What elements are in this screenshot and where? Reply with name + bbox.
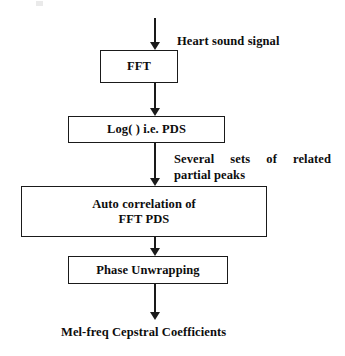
process-box-auto-correlation-label-line2: FFT PDS xyxy=(92,212,196,227)
arrow-head-icon xyxy=(150,108,160,116)
label-partial-peaks: Several sets of related partial peaks xyxy=(174,152,331,183)
arrow-head-icon xyxy=(150,312,160,320)
arrow-shaft xyxy=(154,284,156,313)
process-box-auto-correlation[interactable]: Auto correlation of FFT PDS xyxy=(21,186,267,237)
process-box-log-pds-label: Log( ) i.e. PDS xyxy=(107,122,186,137)
arrow-head-icon xyxy=(150,178,160,186)
label-heart-sound-signal: Heart sound signal xyxy=(177,34,280,50)
process-box-auto-correlation-text: Auto correlation of FFT PDS xyxy=(92,197,196,227)
arrow-head-icon xyxy=(150,42,160,50)
process-box-phase-unwrapping-label: Phase Unwrapping xyxy=(96,263,199,278)
process-box-fft-label: FFT xyxy=(127,59,151,74)
arrow-shaft xyxy=(154,143,156,179)
scan-artifact xyxy=(36,1,43,6)
arrow-shaft xyxy=(154,18,156,43)
arrow-head-icon xyxy=(150,248,160,256)
flowchart-canvas: Heart sound signal FFT Log( ) i.e. PDS S… xyxy=(0,0,345,356)
process-box-phase-unwrapping[interactable]: Phase Unwrapping xyxy=(68,256,228,284)
label-mel-freq-cepstral-coefficients: Mel-freq Cepstral Coefficients xyxy=(61,325,226,341)
process-box-fft[interactable]: FFT xyxy=(100,50,178,83)
arrow-shaft xyxy=(154,83,156,109)
process-box-auto-correlation-label-line1: Auto correlation of xyxy=(92,197,196,212)
label-partial-peaks-line1: Several sets of related xyxy=(174,152,331,168)
process-box-log-pds[interactable]: Log( ) i.e. PDS xyxy=(68,116,225,143)
label-partial-peaks-line2: partial peaks xyxy=(174,168,331,184)
